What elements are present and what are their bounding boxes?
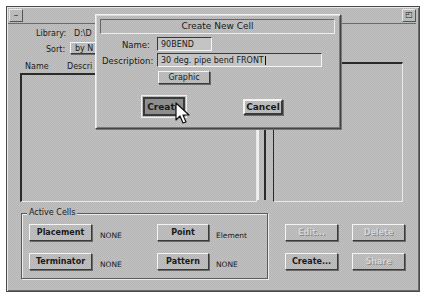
maximize-icon: ◰ — [405, 10, 413, 19]
point-button[interactable]: Point — [157, 224, 209, 241]
column-header-description[interactable]: Descri — [67, 62, 92, 71]
placement-value: NONE — [100, 231, 122, 240]
dialog-title: Create New Cell — [100, 19, 335, 34]
system-menu-button[interactable]: – — [9, 9, 23, 22]
mouse-pointer-icon — [174, 102, 196, 128]
splitter-highlight — [257, 130, 259, 200]
pattern-value: NONE — [216, 260, 238, 269]
library-path: D:\D — [74, 29, 92, 38]
placement-button[interactable]: Placement — [29, 224, 92, 241]
create-cell-button[interactable]: Create... — [285, 253, 338, 270]
terminator-button[interactable]: Terminator — [29, 253, 92, 270]
text-cursor — [265, 56, 266, 65]
cell-type-graphic-button[interactable]: Graphic — [158, 71, 210, 84]
description-label: Description: — [102, 56, 153, 66]
sort-value: by N — [75, 44, 93, 53]
system-menu-icon: – — [14, 10, 19, 20]
name-input[interactable]: 90BEND — [157, 37, 212, 51]
dialog-cancel-button[interactable]: Cancel — [243, 99, 283, 115]
delete-button[interactable]: Delete — [352, 224, 405, 241]
terminator-value: NONE — [100, 260, 122, 269]
active-cells-title: Active Cells — [27, 208, 77, 217]
share-button[interactable]: Share — [352, 253, 405, 270]
pattern-button[interactable]: Pattern — [157, 253, 209, 270]
point-value: Element — [216, 231, 247, 240]
column-header-name[interactable]: Name — [25, 62, 49, 71]
sort-label: Sort: — [46, 45, 65, 54]
description-input[interactable]: 30 deg. pipe bend FRONT — [157, 53, 322, 67]
maximize-button[interactable]: ◰ — [402, 9, 416, 22]
library-label: Library: — [36, 29, 66, 38]
edit-button[interactable]: Edit... — [285, 224, 338, 241]
splitter[interactable] — [264, 128, 266, 200]
name-label: Name: — [122, 40, 150, 50]
